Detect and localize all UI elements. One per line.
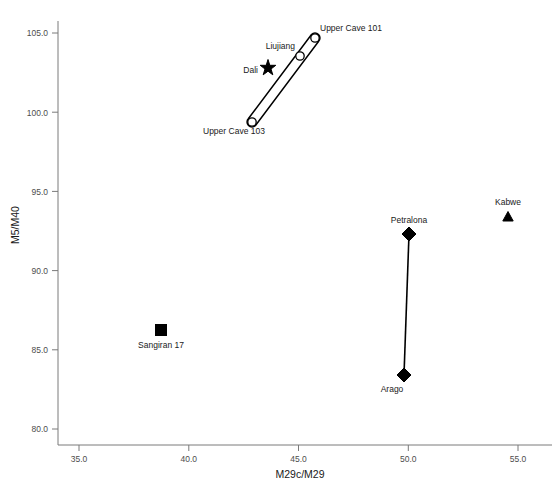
y-tick-label: 85.0 bbox=[31, 345, 48, 355]
x-tick-label: 55.0 bbox=[510, 454, 527, 464]
x-tick-label: 35.0 bbox=[71, 454, 88, 464]
point-label-upper-cave-101: Upper Cave 101 bbox=[320, 23, 382, 33]
y-axis-title: M5/M40 bbox=[9, 206, 21, 244]
x-tick-label: 40.0 bbox=[181, 454, 198, 464]
data-point-liujiang[interactable] bbox=[296, 52, 304, 60]
x-axis-ticks bbox=[79, 445, 518, 451]
y-axis-ticks bbox=[52, 33, 58, 429]
point-label-arago: Arago bbox=[381, 384, 404, 394]
data-point-arago-diamond[interactable] bbox=[397, 368, 411, 382]
data-point-sangiran-17-square[interactable] bbox=[156, 325, 167, 336]
point-label-petralona: Petralona bbox=[391, 215, 428, 225]
y-tick-label: 90.0 bbox=[31, 266, 48, 276]
data-point-upper-cave-101[interactable] bbox=[311, 34, 319, 42]
y-tick-label: 105.0 bbox=[27, 28, 49, 38]
data-point-upper-cave-103[interactable] bbox=[248, 118, 256, 126]
point-label-liujiang: Liujiang bbox=[266, 41, 296, 51]
data-point-petralona-diamond[interactable] bbox=[402, 227, 416, 241]
plot-canvas: 105.0 100.0 95.0 90.0 85.0 80.0 35.0 40.… bbox=[0, 0, 554, 489]
x-tick-label: 50.0 bbox=[400, 454, 417, 464]
point-label-upper-cave-103: Upper Cave 103 bbox=[203, 126, 265, 136]
x-tick-label: 45.0 bbox=[290, 454, 307, 464]
y-tick-label: 80.0 bbox=[31, 424, 48, 434]
scatter-plot-figure: 105.0 100.0 95.0 90.0 85.0 80.0 35.0 40.… bbox=[0, 0, 554, 489]
y-axis-tick-labels: 105.0 100.0 95.0 90.0 85.0 80.0 bbox=[27, 28, 49, 434]
data-point-kabwe-triangle[interactable] bbox=[503, 212, 513, 222]
data-point-dali-star[interactable] bbox=[260, 60, 276, 75]
x-axis-title: M29c/M29 bbox=[275, 468, 324, 480]
petralona-arago-link bbox=[404, 234, 409, 375]
y-tick-label: 100.0 bbox=[27, 108, 49, 118]
point-label-dali: Dali bbox=[243, 65, 258, 75]
x-axis-tick-labels: 35.0 40.0 45.0 50.0 55.0 bbox=[71, 454, 527, 464]
point-label-kabwe: Kabwe bbox=[495, 197, 521, 207]
point-label-sangiran-17: Sangiran 17 bbox=[138, 340, 184, 350]
y-tick-label: 95.0 bbox=[31, 187, 48, 197]
